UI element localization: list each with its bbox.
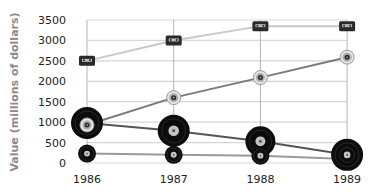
y-tick-label: 3500 xyxy=(38,14,66,27)
x-tick-label: 1987 xyxy=(160,173,188,186)
single-record-icon xyxy=(78,145,96,163)
series-lines xyxy=(87,26,347,159)
series-line-singles xyxy=(87,154,347,159)
y-tick-label: 2500 xyxy=(38,55,66,68)
y-tick-label: 3000 xyxy=(38,34,66,47)
y-tick-label: 1500 xyxy=(38,96,66,109)
series-markers xyxy=(71,21,363,171)
cassette-icon xyxy=(79,56,95,66)
x-tick-label: 1989 xyxy=(333,173,361,186)
cd-icon xyxy=(80,118,94,132)
series-line-cds xyxy=(87,57,347,125)
lp-record-icon xyxy=(158,115,190,147)
cassette-icon xyxy=(252,21,268,31)
single-record-icon xyxy=(251,147,269,165)
cd-icon xyxy=(340,50,354,64)
cd-icon xyxy=(167,91,181,105)
cd-icon xyxy=(253,71,267,85)
y-axis-label: Value (millions of dollars) xyxy=(8,12,21,171)
cassette-icon xyxy=(339,21,355,31)
y-tick-label: 500 xyxy=(45,137,66,150)
x-tick-label: 1988 xyxy=(246,173,274,186)
series-line-cassettes xyxy=(87,26,347,61)
gridlines xyxy=(87,20,347,163)
y-tick-label: 2000 xyxy=(38,75,66,88)
single-record-icon xyxy=(165,146,183,164)
x-axis-ticks: 1986198719881989 xyxy=(73,173,361,186)
line-chart: 0500100015002000250030003500 19861987198… xyxy=(0,0,381,194)
y-tick-label: 0 xyxy=(59,157,66,170)
series-line-lps xyxy=(87,123,347,155)
x-tick-label: 1986 xyxy=(73,173,101,186)
cassette-icon xyxy=(166,35,182,45)
single-record-icon xyxy=(337,145,357,165)
y-axis-ticks: 0500100015002000250030003500 xyxy=(38,14,66,170)
y-tick-label: 1000 xyxy=(38,116,66,129)
